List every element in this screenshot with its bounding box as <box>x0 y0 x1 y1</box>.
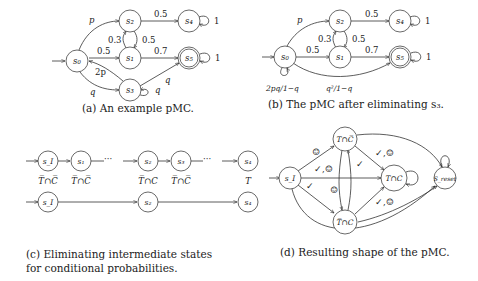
edge-label: ✓,☺ <box>375 197 394 207</box>
state-label: s_I <box>285 174 297 183</box>
state-label: S_reset <box>434 175 457 183</box>
state-label: T̅∩C <box>336 218 353 227</box>
edge-label: 1 <box>215 53 220 63</box>
edge-label: 0.5 <box>352 34 366 44</box>
edge-label: 0.5 <box>365 9 379 19</box>
state-label: s₂ <box>336 16 344 26</box>
state-label: s₄ <box>245 157 252 166</box>
condition-label: T <box>245 176 252 186</box>
edge-label: q <box>165 75 171 85</box>
state-label: s_I <box>43 157 55 166</box>
edge-label: 1 <box>425 16 430 26</box>
caption-c-line2: for conditional probabilities. <box>26 262 178 274</box>
edge-label: 2pq/1−q <box>265 84 299 93</box>
edge-label: 0.7 <box>154 46 168 56</box>
condition-label: T̅∩C̅ <box>71 175 91 186</box>
panel-b: s₀ s₂ s₁ s₄ s₅ p 0.5 0.3 0.5 0.5 0.7 1 1… <box>262 9 444 110</box>
state-label: s₄ <box>245 198 252 207</box>
caption-b: (b) The pMC after eliminating s₃. <box>268 98 444 110</box>
condition-label: T̅∩C <box>138 175 158 186</box>
edge-label: ✓,☺ <box>375 148 394 158</box>
state-label: s₄ <box>185 16 193 26</box>
state-label: s₂ <box>126 16 134 26</box>
edge-label: 0.7 <box>365 45 379 55</box>
edge-label: 0.5 <box>97 46 111 56</box>
condition-label: T̅∩C̅ <box>38 175 58 186</box>
panel-a: s₀ s₂ s₁ s₃ s₄ s₅ p 0.5 q 2p 0.3 0.5 0.5… <box>52 9 220 114</box>
caption-a: (a) An example pMC. <box>82 102 194 114</box>
edge-label: p <box>297 15 303 25</box>
state-label: T∩C <box>385 174 402 183</box>
edge-label: q <box>155 85 161 95</box>
edge-label: 0.5 <box>154 9 168 19</box>
edge-label: q <box>90 87 96 97</box>
edge-label: ✓ <box>356 159 364 169</box>
edge-label: q²/1−q <box>326 84 352 93</box>
edge-label: ☺ <box>330 185 338 195</box>
edge-label: 1 <box>426 52 431 62</box>
panel-d: T∩C̅ s_I T∩C S_reset T̅∩C ☺ ✓,☺ ✓ ✓,☺ ✓ … <box>269 127 457 258</box>
state-label: s₀ <box>281 52 289 62</box>
state-label: T∩C̅ <box>336 135 353 144</box>
state-label: s₂ <box>145 157 152 166</box>
edge-label: 2p <box>95 67 106 77</box>
panel-c: ··· ··· s_I s₁ s₂ s₃ s₄ T̅∩C̅ T̅∩C̅ T̅∩C… <box>26 151 258 274</box>
edge-label: 0.3 <box>108 35 122 45</box>
edge-label: 1 <box>214 16 219 26</box>
state-label: s_I <box>43 198 55 207</box>
figure-canvas: s₀ s₂ s₁ s₃ s₄ s₅ p 0.5 q 2p 0.3 0.5 0.5… <box>0 0 478 281</box>
state-label: s₀ <box>73 56 81 66</box>
edge-label: 0.5 <box>306 45 320 55</box>
edge-label: 0.3 <box>318 34 332 44</box>
edge-label: 0.5 <box>142 35 156 45</box>
edge-label: ☺ <box>312 147 320 157</box>
state-label: s₂ <box>145 198 152 207</box>
caption-d: (d) Resulting shape of the pMC. <box>280 246 450 258</box>
ellipsis: ··· <box>203 154 211 164</box>
condition-label: T̅∩C̅ <box>171 175 191 186</box>
edge-label: p <box>89 15 95 25</box>
state-label: s₄ <box>396 16 404 26</box>
state-label: s₃ <box>126 85 134 95</box>
state-label: s₁ <box>336 52 344 62</box>
edge-label: ✓ <box>306 181 314 191</box>
state-label: s₅ <box>396 52 404 62</box>
state-label: s₅ <box>185 53 193 63</box>
state-label: s₁ <box>78 157 85 166</box>
caption-c-line1: (c) Eliminating intermediate states <box>26 248 212 260</box>
ellipsis: ··· <box>104 154 112 164</box>
state-label: s₃ <box>178 157 185 166</box>
state-label: s₁ <box>126 53 134 63</box>
edge-label: ✓,☺ <box>314 164 333 174</box>
